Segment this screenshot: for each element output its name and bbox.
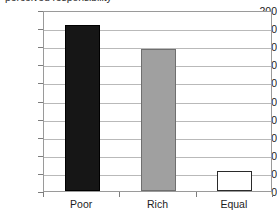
chart-title: perceived responsibility <box>5 0 273 5</box>
x-axis-tick-mark <box>272 192 273 197</box>
x-axis-tick-label: Rich <box>147 198 168 210</box>
plot-area <box>43 11 272 192</box>
x-axis-tick-mark <box>196 192 197 197</box>
x-axis-tick-mark <box>119 192 120 197</box>
bar-chart: perceived responsibility 200180160140120… <box>0 0 277 215</box>
bar-rich <box>141 49 176 191</box>
bar-poor <box>65 25 100 191</box>
bar-equal <box>217 171 252 191</box>
x-axis-tick-label: Equal <box>220 198 247 210</box>
x-axis-tick-mark <box>43 192 44 197</box>
x-axis-tick-label: Poor <box>70 198 92 210</box>
